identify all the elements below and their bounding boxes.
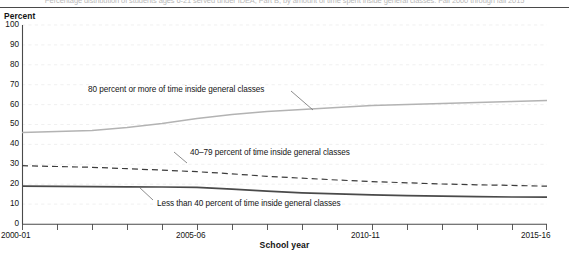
leader-line-under-40 xyxy=(139,187,153,200)
y-tick-label-90: 90 xyxy=(0,40,19,49)
y-tick-label-40: 40 xyxy=(0,139,19,148)
leader-line-40-79 xyxy=(174,152,187,163)
series-annotation-40-79: 40–79 percent of time inside general cla… xyxy=(190,148,350,157)
x-axis-title: School year xyxy=(0,240,569,250)
y-tick-label-10: 10 xyxy=(0,199,19,208)
series-line-under-40 xyxy=(22,186,547,197)
plot-area xyxy=(0,0,569,255)
y-tick-label-100: 100 xyxy=(0,20,19,29)
series-line-40-79 xyxy=(22,166,547,187)
y-tick-label-70: 70 xyxy=(0,80,19,89)
series-annotation-under-40: Less than 40 percent of time inside gene… xyxy=(157,199,341,208)
y-tick-label-20: 20 xyxy=(0,179,19,188)
y-tick-label-30: 30 xyxy=(0,159,19,168)
x-tick-label-2005-06: 2005-06 xyxy=(176,231,205,240)
x-tick-label-2010-11: 2010-11 xyxy=(351,231,380,240)
x-axis-ticks xyxy=(23,224,547,230)
x-tick-label-2000-01: 2000-01 xyxy=(1,231,30,240)
series-annotation-80-plus: 80 percent or more of time inside genera… xyxy=(88,85,264,94)
series-line-80-plus xyxy=(22,101,547,133)
y-tick-label-80: 80 xyxy=(0,60,19,69)
leader-line-80-plus xyxy=(291,91,313,110)
annotation-leader-lines xyxy=(139,91,313,200)
y-tick-label-50: 50 xyxy=(0,119,19,128)
y-tick-label-0: 0 xyxy=(0,219,19,228)
x-tick-label-2015-16: 2015-16 xyxy=(521,231,550,240)
y-tick-label-60: 60 xyxy=(0,100,19,109)
chart-figure: Percentage distribution of students ages… xyxy=(0,0,569,255)
